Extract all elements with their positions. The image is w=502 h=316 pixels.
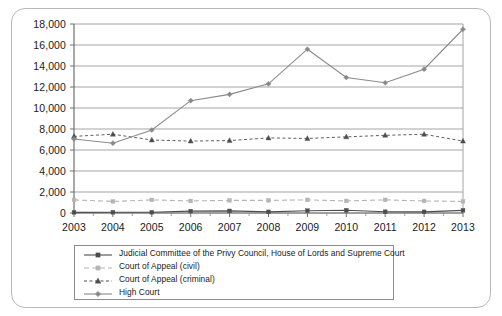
series-1 — [72, 198, 465, 203]
x-tick-label: 2012 — [412, 221, 436, 233]
legend-item[interactable]: Judicial Committee of the Privy Council,… — [75, 246, 393, 259]
legend-swatch-judicial-committee — [80, 247, 116, 259]
y-tick-label: 14,000 — [12, 60, 66, 72]
x-tick-label: 2006 — [179, 221, 203, 233]
legend-item[interactable]: Court of Appeal (civil) — [75, 259, 393, 272]
y-tick-label: 8,000 — [12, 123, 66, 135]
x-tick-label: 2011 — [374, 221, 397, 233]
chart-figure-frame: 02,0004,0006,0008,00010,00012,00014,0001… — [11, 8, 491, 308]
x-tick-label: 2004 — [101, 221, 125, 233]
chart-legend: Judicial Committee of the Privy Council,… — [74, 245, 394, 300]
x-tick-label: 2003 — [62, 221, 86, 233]
legend-item[interactable]: Court of Appeal (criminal) — [75, 272, 393, 285]
x-tick-label: 2010 — [334, 221, 358, 233]
y-tick-label: 18,000 — [12, 18, 66, 30]
legend-swatch-high-court — [80, 286, 116, 298]
y-tick-label: 12,000 — [12, 81, 66, 93]
y-tick-label: 4,000 — [12, 165, 66, 177]
gridlines-group — [74, 24, 463, 213]
legend-label: High Court — [119, 287, 160, 297]
legend-swatch-court-of-appeal-criminal — [80, 273, 116, 285]
legend-item[interactable]: High Court — [75, 286, 393, 299]
series-3 — [71, 27, 465, 146]
x-tick-label: 2009 — [296, 221, 320, 233]
y-tick-label: 6,000 — [12, 144, 66, 156]
y-tick-label: 16,000 — [12, 39, 66, 51]
x-tick-label: 2013 — [451, 221, 475, 233]
y-tick-label: 10,000 — [12, 102, 66, 114]
legend-label: Court of Appeal (criminal) — [119, 274, 215, 284]
data-series-group — [71, 27, 465, 215]
x-tick-label: 2005 — [140, 221, 164, 233]
y-tick-label: 2,000 — [12, 186, 66, 198]
x-tick-label: 2007 — [218, 221, 242, 233]
legend-swatch-court-of-appeal-civil — [80, 260, 116, 272]
x-axis-line-group — [74, 24, 463, 213]
x-tick-label: 2008 — [257, 221, 281, 233]
legend-label: Judicial Committee of the Privy Council,… — [119, 248, 405, 258]
legend-label: Court of Appeal (civil) — [119, 261, 200, 271]
y-tick-label: 0 — [12, 207, 66, 219]
